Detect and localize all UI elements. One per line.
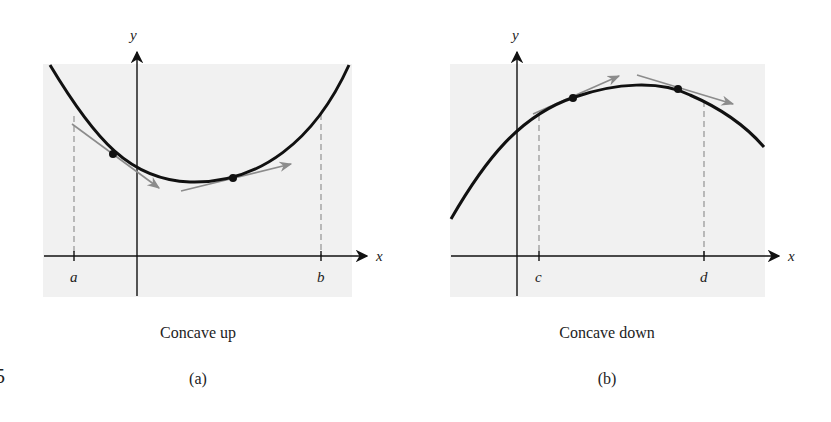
panel-a-background xyxy=(43,64,352,297)
tangent-point-2 xyxy=(229,174,237,182)
y-axis-label: y xyxy=(128,27,137,43)
panel-a-sublabel: (a) xyxy=(98,370,298,388)
panel-b-sublabel: (b) xyxy=(507,370,707,388)
panel-a-caption: Concave up xyxy=(98,324,298,342)
x-axis-label: x xyxy=(787,248,795,264)
panel-b-caption: Concave down xyxy=(507,324,707,342)
panel-b-concave-down: y x c d xyxy=(450,27,795,297)
concavity-figure: y x a b y x c d xyxy=(0,0,831,422)
tangent-point-1 xyxy=(569,94,577,102)
tick-label-c: c xyxy=(535,269,542,285)
tangent-point-2 xyxy=(674,85,682,93)
x-axis-label: x xyxy=(375,248,383,264)
tangent-point-1 xyxy=(109,150,117,158)
y-axis-label: y xyxy=(510,27,519,43)
tick-label-d: d xyxy=(700,269,708,285)
panel-a-concave-up: y x a b xyxy=(43,27,383,297)
tick-label-a: a xyxy=(70,269,78,285)
tick-label-b: b xyxy=(317,269,325,285)
